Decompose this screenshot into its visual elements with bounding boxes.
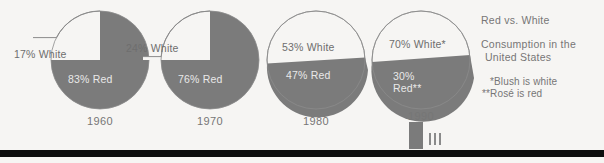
legend-footnotes: *Blush is white **Rosé is red [481, 76, 604, 100]
legend-title: Red vs. White [481, 14, 604, 27]
tick-mark-3 [439, 133, 441, 145]
legend-subtitle-line1: Consumption in the [481, 38, 604, 51]
legend-footnote-blush: *Blush is white [481, 76, 604, 88]
year-label-1990: 1990 [381, 110, 461, 122]
legend-subtitle-line2: United States [481, 51, 604, 64]
pie-1990-red-label-line2: Red** [393, 82, 421, 94]
tick-mark-2 [434, 133, 436, 145]
gray-vertical-bar [409, 122, 423, 149]
legend: Red vs. White Consumption in the United … [481, 14, 604, 100]
tick-mark-1 [429, 133, 431, 145]
pie-1990-red-label-line1: 30% [393, 70, 415, 82]
pie-1990-white-label: 70% White* [389, 38, 446, 50]
chart-figure: 17% White 83% Red 1960 24% White 76% Red… [0, 0, 604, 163]
legend-footnote-rose: **Rosé is red [481, 88, 604, 100]
bottom-rule [0, 150, 604, 157]
